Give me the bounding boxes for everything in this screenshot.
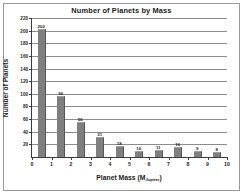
y-tick-label: 60	[23, 117, 28, 122]
gridline	[32, 69, 227, 70]
x-tick-label: 10	[224, 161, 230, 167]
y-tick-mark	[29, 144, 32, 145]
x-tick-label: 4	[109, 161, 112, 167]
x-tick-label: 3	[89, 161, 92, 167]
y-tick-label: 160	[20, 53, 28, 58]
bar: 56	[77, 122, 85, 157]
x-tick-mark	[130, 157, 131, 160]
x-tick-label: 2	[70, 161, 73, 167]
bar: 18	[116, 146, 124, 157]
x-tick-mark	[227, 157, 228, 160]
x-tick-label: 6	[148, 161, 151, 167]
bar: 8	[213, 152, 221, 157]
y-tick-mark	[29, 81, 32, 82]
y-tick-mark	[29, 94, 32, 95]
x-tick-mark	[169, 157, 170, 160]
x-tick-mark	[188, 157, 189, 160]
y-tick-mark	[29, 43, 32, 44]
bar: 16	[174, 147, 182, 157]
x-tick-label: 9	[206, 161, 209, 167]
bar-value-label: 96	[58, 91, 63, 96]
bar-value-label: 18	[117, 141, 122, 146]
x-tick-mark	[149, 157, 150, 160]
gridline	[32, 56, 227, 57]
x-tick-label: 1	[50, 161, 53, 167]
gridline	[32, 81, 227, 82]
y-tick-label: 220	[20, 16, 28, 21]
y-tick-mark	[29, 56, 32, 57]
x-tick-label: 0	[31, 161, 34, 167]
y-tick-mark	[29, 31, 32, 32]
y-axis-title-text: Number of Planets	[2, 59, 9, 117]
x-axis-title: Planet Mass (MJupiter)	[31, 174, 227, 181]
x-axis-title-close: )	[159, 174, 161, 181]
x-tick-mark	[32, 157, 33, 160]
bar-value-label: 9	[196, 146, 198, 151]
y-tick-label: 40	[23, 129, 28, 134]
chart-figure: Number of Planets by Mass Number of Plan…	[0, 0, 243, 194]
x-tick-mark	[208, 157, 209, 160]
bar: 9	[194, 151, 202, 157]
x-tick-mark	[71, 157, 72, 160]
y-tick-label: 200	[20, 28, 28, 33]
y-tick-label: 100	[20, 91, 28, 96]
y-tick-mark	[29, 119, 32, 120]
y-axis-title: Number of Planets	[2, 59, 9, 117]
bar-value-label: 8	[216, 147, 218, 152]
x-axis-title-text: Planet Mass (M	[96, 174, 145, 181]
y-tick-mark	[29, 18, 32, 19]
x-axis-title-subscript: Jupiter	[145, 177, 159, 182]
bar-value-label: 11	[156, 145, 161, 150]
y-tick-mark	[29, 132, 32, 133]
gridline	[32, 43, 227, 44]
bar-value-label: 16	[175, 142, 180, 147]
y-tick-mark	[29, 106, 32, 107]
bar: 11	[155, 150, 163, 157]
y-tick-label: 180	[20, 41, 28, 46]
bar-value-label: 202	[38, 24, 45, 29]
y-tick-label: 80	[23, 104, 28, 109]
plot-area: 20406080100120140160180200220 0123456789…	[31, 18, 227, 158]
gridline	[32, 18, 227, 19]
bar-value-label: 56	[78, 117, 83, 122]
x-tick-label: 5	[128, 161, 131, 167]
x-tick-label: 7	[167, 161, 170, 167]
gridline	[32, 31, 227, 32]
bar: 202	[38, 29, 46, 157]
bar: 10	[135, 151, 143, 157]
x-tick-mark	[91, 157, 92, 160]
bar-value-label: 31	[97, 132, 102, 137]
bar: 96	[57, 96, 65, 157]
bar-value-label: 10	[136, 146, 141, 151]
x-tick-mark	[110, 157, 111, 160]
y-tick-label: 20	[23, 142, 28, 147]
y-tick-mark	[29, 69, 32, 70]
chart-title: Number of Planets by Mass	[0, 6, 243, 15]
y-tick-label: 140	[20, 66, 28, 71]
x-tick-mark	[52, 157, 53, 160]
x-tick-label: 8	[187, 161, 190, 167]
bar: 31	[96, 137, 104, 157]
y-tick-label: 120	[20, 79, 28, 84]
